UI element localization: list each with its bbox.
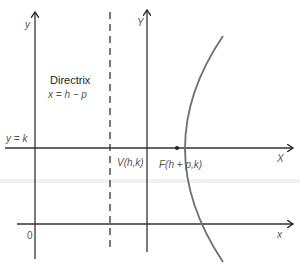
focus-label: F(h + p,k) — [159, 160, 202, 170]
X-axis-label: X — [277, 154, 284, 164]
y-axis-label: y — [25, 20, 30, 30]
origin-label: 0 — [27, 231, 33, 241]
directrix-title: Directrix — [50, 75, 90, 86]
vertex-label: V(h,k) — [117, 158, 144, 168]
parabola-curve — [185, 36, 223, 262]
Y-axis-label: Y — [137, 18, 144, 28]
y-equals-k-label: y = k — [6, 134, 27, 144]
focus-point — [175, 146, 179, 150]
directrix-equation: x = h − p — [48, 90, 87, 100]
x-axis-label: x — [277, 230, 282, 240]
diagram-canvas — [0, 0, 300, 267]
